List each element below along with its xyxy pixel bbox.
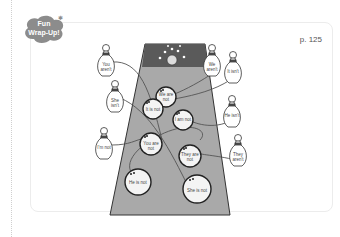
ball-label: She is not <box>185 188 209 193</box>
pin-label: He isn't <box>224 113 240 118</box>
ball-label: I am not <box>173 117 193 122</box>
pin-label: She isn't <box>107 98 123 108</box>
ball-label: You are not <box>141 141 161 151</box>
pin-label: I'm not <box>96 145 112 150</box>
pin-label: We aren't <box>204 62 220 72</box>
pin-im-not <box>96 128 113 160</box>
ball-label: We are not <box>156 92 176 102</box>
pin-label: They aren't <box>230 152 246 162</box>
pin-label: You aren't <box>98 62 114 72</box>
ball-label: It is not <box>143 107 163 112</box>
pin-he-isnt <box>224 96 241 128</box>
pin-label: It isn't <box>225 69 241 74</box>
ball-label: He is not <box>126 180 150 185</box>
pin-it-isnt <box>225 52 242 84</box>
bowling-scene <box>0 0 340 237</box>
ball-label: They are not <box>180 152 200 162</box>
